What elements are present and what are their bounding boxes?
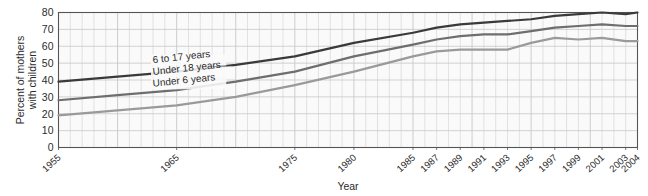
x-tick-label: 1980 (335, 152, 358, 174)
y-tick-label: 80 (42, 6, 54, 18)
y-tick-label: 10 (42, 124, 54, 136)
y-axis-title-line: Percent of mothers (14, 36, 26, 125)
y-tick-label: 0 (48, 141, 54, 153)
x-tick-label: 1965 (158, 152, 181, 174)
y-tick-label: 40 (42, 74, 54, 86)
y-axis-title: Percent of motherswith children (14, 36, 38, 125)
x-tick-label: 1985 (394, 152, 417, 174)
x-tick-label: 1975 (276, 152, 299, 174)
y-tick-label: 30 (42, 91, 54, 103)
x-tick-label: 1989 (442, 152, 465, 174)
x-tick-label: 2001 (583, 152, 606, 174)
mothers-labor-force-line-chart: 01020304050607080Percent of motherswith … (0, 0, 648, 196)
chart-figure: 01020304050607080Percent of motherswith … (0, 0, 648, 196)
y-tick-label: 50 (42, 57, 54, 69)
x-tick-label: 1995 (512, 152, 535, 174)
y-axis-ticks: 01020304050607080 (42, 6, 54, 153)
x-tick-label: 1999 (560, 152, 583, 174)
y-tick-label: 70 (42, 23, 54, 35)
y-tick-label: 60 (42, 40, 54, 52)
y-tick-label: 20 (42, 108, 54, 120)
x-tick-label: 1997 (536, 152, 559, 174)
x-tick-label: 1987 (418, 152, 441, 174)
x-axis-ticks: 1955196519751980198519871989199119931995… (40, 148, 642, 175)
y-axis-title-line: with children (26, 51, 38, 111)
x-tick-label: 1955 (40, 152, 63, 174)
x-axis-title: Year (337, 180, 359, 192)
x-tick-label: 1993 (489, 152, 512, 174)
x-tick-label: 1991 (465, 152, 488, 174)
